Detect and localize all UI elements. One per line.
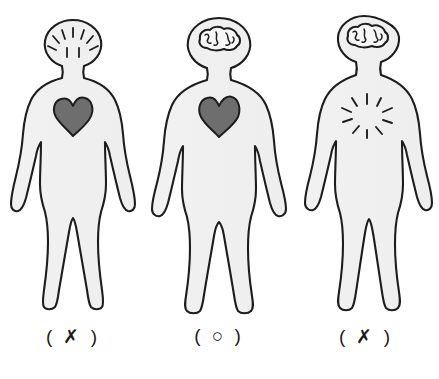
brain-shape-2	[199, 27, 240, 51]
figure-panel-1: ( ✗ )	[0, 0, 146, 379]
figure-label-3: ( ✗ )	[293, 325, 439, 348]
diagram-canvas: ( ✗ ) (	[0, 0, 439, 379]
figure-panel-2: ( ○ )	[146, 0, 292, 379]
body-outline-2	[152, 18, 286, 313]
figure-label-1: ( ✗ )	[0, 325, 146, 348]
figure-label-2: ( ○ )	[146, 325, 292, 347]
figure-illustration-3	[293, 8, 439, 318]
figure-panel-3: ( ✗ )	[293, 0, 439, 379]
brain-shape-3	[347, 24, 388, 48]
figure-illustration-1	[0, 8, 146, 318]
body-outline-3	[305, 16, 432, 310]
figure-illustration-2	[146, 8, 292, 318]
body-outline-1	[11, 20, 135, 309]
